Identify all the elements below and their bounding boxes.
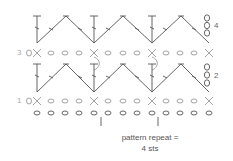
caption-line-1: pattern repeat = <box>80 132 220 143</box>
row-4-zigzag <box>33 16 209 43</box>
repeat-markers <box>101 117 158 126</box>
row-2-zigzag <box>33 64 209 92</box>
row-label-1: 1 <box>17 97 21 105</box>
row-2-turning-chain <box>204 64 209 86</box>
caption-line-2: 4 sts <box>80 143 220 154</box>
row-4-turning-chain <box>204 15 209 36</box>
row-label-3: 3 <box>17 49 21 57</box>
row-label-2: 2 <box>214 72 218 80</box>
foundation-chain <box>34 111 212 115</box>
row-label-4: 4 <box>214 22 218 30</box>
pattern-repeat-caption: pattern repeat = 4 sts <box>80 132 220 154</box>
row-1 <box>27 97 214 105</box>
